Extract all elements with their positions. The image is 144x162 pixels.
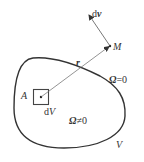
- diagram-canvas: dv M r Ω=0 A dV Ω≠0 V: [0, 0, 144, 162]
- velocity-vector-line: [89, 15, 110, 46]
- inside-region-label: Ω≠0: [69, 115, 87, 126]
- velocity-label: dv: [92, 8, 102, 19]
- position-vector-label: r: [76, 57, 80, 68]
- outside-region-label: Ω=0: [109, 74, 127, 85]
- diagram-svg: dv M r Ω=0 A dV Ω≠0 V: [0, 0, 144, 162]
- point-m-label: M: [112, 41, 122, 52]
- region-name-label: V: [116, 139, 124, 150]
- position-vector-line: [41, 47, 109, 98]
- region-boundary: [14, 58, 125, 148]
- volume-element-label: dV: [44, 106, 57, 117]
- point-a-label: A: [20, 90, 28, 101]
